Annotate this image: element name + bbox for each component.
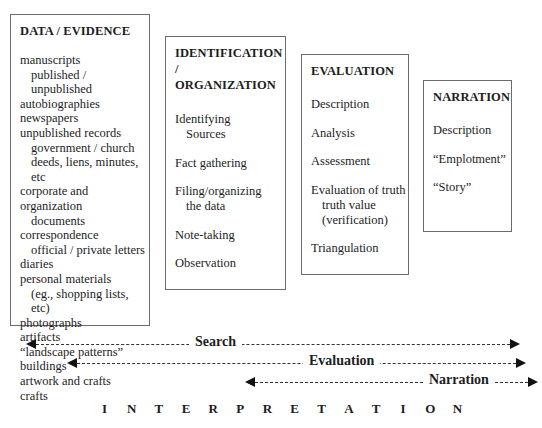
interpretation-letter: R	[200, 401, 227, 417]
arrow-left-icon	[67, 358, 77, 368]
list-item-text: Observation	[175, 256, 236, 270]
interpretation-letter: E	[281, 401, 308, 417]
identification-title-line2: ORGANIZATION	[175, 77, 285, 93]
list-item: Fact gathering	[175, 156, 285, 171]
interpretation-letter: E	[172, 401, 199, 417]
search-label: Search	[189, 333, 242, 351]
list-item: Observation	[175, 256, 285, 271]
interpretation-letter: O	[417, 401, 444, 417]
list-item: manuscripts	[20, 53, 149, 68]
list-item: artwork and crafts	[20, 374, 149, 389]
list-item: Assessment	[311, 154, 408, 169]
narration-box: NARRATION Description “Emplotment” “Stor…	[423, 80, 512, 232]
interpretation-letter: I	[91, 401, 118, 417]
arrow-right-icon	[516, 358, 526, 368]
dashed-line	[36, 344, 510, 345]
list-item-continuation: (verification)	[311, 213, 408, 228]
interpretation-letter: T	[308, 401, 335, 417]
list-item: Description	[433, 123, 511, 138]
arrow-right-icon	[510, 339, 520, 349]
list-item: published / unpublished	[20, 68, 149, 97]
interpretation-letter: T	[362, 401, 389, 417]
narration-label: Narration	[423, 371, 495, 389]
interpretation-letter: N	[118, 401, 145, 417]
identification-list: Identifying Sources Fact gathering Filin…	[175, 112, 285, 271]
data-evidence-list: manuscripts published / unpublished auto…	[20, 53, 149, 403]
interpretation-letter: P	[227, 401, 254, 417]
list-item: Description	[311, 97, 408, 112]
identification-title: IDENTIFICATION / ORGANIZATION	[175, 45, 285, 93]
list-item: unpublished records	[20, 126, 149, 141]
list-item-text: Evaluation of truth	[311, 183, 405, 197]
interpretation-label: I N T E R P R E T A T I O N	[91, 401, 471, 417]
list-item-continuation: the data	[175, 199, 285, 214]
data-evidence-title: DATA / EVIDENCE	[20, 23, 149, 39]
interpretation-letter: A	[335, 401, 362, 417]
list-item: personal materials	[20, 272, 149, 287]
evaluation-label: Evaluation	[303, 352, 380, 370]
list-item-text: Identifying	[175, 112, 231, 126]
list-item-text: Note-taking	[175, 228, 235, 242]
list-item: newspapers	[20, 111, 149, 126]
list-item: diaries	[20, 257, 149, 272]
list-item: corporate and organization	[20, 184, 149, 213]
evaluation-title: EVALUATION	[311, 63, 408, 79]
list-item: (eg., shopping lists, etc)	[20, 287, 149, 316]
data-evidence-box: DATA / EVIDENCE manuscripts published / …	[10, 14, 150, 326]
arrow-right-icon	[528, 377, 538, 387]
narration-title: NARRATION	[433, 89, 511, 105]
list-item-text: Filing/organizing	[175, 184, 262, 198]
list-item: “Story”	[433, 180, 511, 195]
list-item: “Emplotment”	[433, 152, 511, 167]
list-item-continuation: truth value	[311, 198, 408, 213]
list-item-continuation: Sources	[175, 127, 285, 142]
interpretation-letter: R	[254, 401, 281, 417]
list-item: Filing/organizing the data	[175, 184, 285, 214]
list-item: photographs	[20, 316, 149, 331]
narration-list: Description “Emplotment” “Story”	[433, 123, 511, 195]
narration-arrow: Narration	[245, 376, 538, 388]
arrow-left-icon	[245, 377, 255, 387]
identification-organization-box: IDENTIFICATION / ORGANIZATION Identifyin…	[165, 36, 286, 290]
list-item: Identifying Sources	[175, 112, 285, 142]
list-item: official / private letters	[20, 243, 149, 258]
list-item: Evaluation of truth truth value (verific…	[311, 183, 408, 228]
interpretation-letter: T	[145, 401, 172, 417]
list-item-text: Fact gathering	[175, 156, 247, 170]
list-item: Analysis	[311, 126, 408, 141]
list-item: correspondence	[20, 228, 149, 243]
list-item: autobiographies	[20, 97, 149, 112]
dashed-line	[77, 363, 516, 364]
interpretation-letter: N	[444, 401, 471, 417]
list-item: Note-taking	[175, 228, 285, 243]
list-item: government / church	[20, 141, 149, 156]
search-arrow: Search	[26, 338, 520, 350]
list-item: documents	[20, 214, 149, 229]
identification-title-line1: IDENTIFICATION /	[175, 45, 285, 77]
interpretation-letter: I	[390, 401, 417, 417]
evaluation-arrow: Evaluation	[67, 357, 526, 369]
arrow-left-icon	[26, 339, 36, 349]
evaluation-list: Description Analysis Assessment Evaluati…	[311, 97, 408, 256]
evaluation-box: EVALUATION Description Analysis Assessme…	[301, 54, 409, 275]
list-item: deeds, liens, minutes, etc	[20, 155, 149, 184]
list-item: Triangulation	[311, 241, 408, 256]
